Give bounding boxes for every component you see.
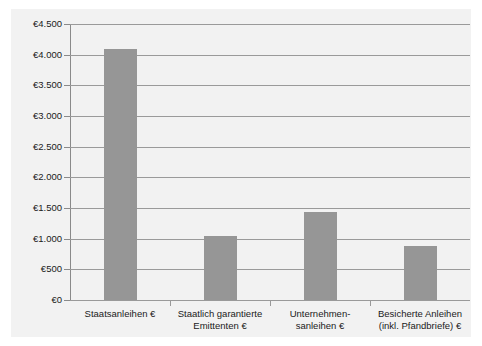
y-axis-tick-label: €1.500 xyxy=(2,203,62,213)
category-label-line: Staatlich garantierte xyxy=(162,308,278,320)
plot-area xyxy=(70,24,470,300)
x-axis-tick-mark xyxy=(170,301,171,306)
gridline xyxy=(70,24,470,25)
y-axis-tick-label: €4.500 xyxy=(2,19,62,29)
y-axis-tick-label: €4.000 xyxy=(2,50,62,60)
y-axis-tick-label: €3.000 xyxy=(2,111,62,121)
category-label-line: sanleihen € xyxy=(262,320,378,332)
x-axis-category-label: Staatlich garantierteEmittenten € xyxy=(162,308,278,331)
y-axis-tick-label: €2.500 xyxy=(2,142,62,152)
bar xyxy=(104,49,137,300)
y-axis-tick-mark xyxy=(64,24,70,25)
y-axis-tick-mark xyxy=(64,239,70,240)
y-axis-tick-mark xyxy=(64,55,70,56)
bar-chart-figure: €0€500€1.000€1.500€2.000€2.500€3.000€3.5… xyxy=(0,0,482,346)
x-axis-tick-mark xyxy=(370,301,371,306)
category-label-line: Staatsanleihen € xyxy=(62,308,178,320)
x-axis-category-label: Staatsanleihen € xyxy=(62,308,178,320)
y-axis-tick-label: €500 xyxy=(2,264,62,274)
bar xyxy=(404,246,437,300)
y-axis-tick-mark xyxy=(64,116,70,117)
y-axis-tick-label: €2.000 xyxy=(2,172,62,182)
y-axis-tick-label: €3.500 xyxy=(2,80,62,90)
category-label-line: Besicherte Anleihen xyxy=(362,308,478,320)
y-axis-tick-mark xyxy=(64,85,70,86)
y-axis-tick-mark xyxy=(64,269,70,270)
y-axis-tick-mark xyxy=(64,147,70,148)
y-axis-tick-label: €1.000 xyxy=(2,234,62,244)
bar xyxy=(204,236,237,300)
y-axis-tick-mark xyxy=(64,208,70,209)
x-axis-category-label: Unternehmen-sanleihen € xyxy=(262,308,378,331)
x-axis-tick-mark xyxy=(270,301,271,306)
category-label-line: (inkl. Pfandbriefe) € xyxy=(362,320,478,332)
y-axis-tick-mark xyxy=(64,300,70,301)
x-axis-category-label: Besicherte Anleihen(inkl. Pfandbriefe) € xyxy=(362,308,478,331)
bar xyxy=(304,212,337,300)
y-axis-tick-label: €0 xyxy=(2,295,62,305)
category-label-line: Emittenten € xyxy=(162,320,278,332)
y-axis-tick-mark xyxy=(64,177,70,178)
category-label-line: Unternehmen- xyxy=(262,308,378,320)
